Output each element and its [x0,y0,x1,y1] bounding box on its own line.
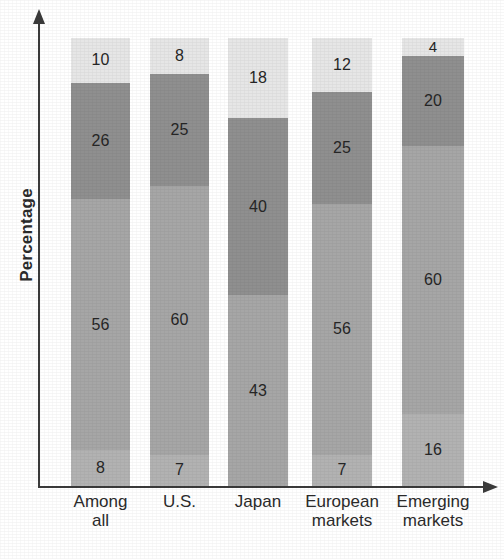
stacked-bar-chart: Percentage 10265688256071840431225567420… [0,0,504,559]
x-axis-arrow-icon [483,481,498,493]
bar-group[interactable]: 825607 [150,38,209,486]
bar-segment-value-label: 8 [175,48,184,64]
bar-segment-value-label: 26 [92,133,110,149]
bar-segment[interactable]: 43 [228,295,288,486]
bar-segment[interactable]: 25 [150,74,209,186]
bar-segment[interactable]: 60 [150,186,209,455]
bar-segment[interactable]: 26 [71,83,130,199]
x-axis-line [38,486,485,488]
bar-segment-value-label: 12 [333,57,351,73]
bar-segment-value-label: 7 [338,462,347,478]
x-axis-category-label: Emerging markets [381,492,485,530]
bar-segment[interactable]: 16 [402,414,464,486]
bar-group[interactable]: 184043 [228,38,288,486]
bar-segment[interactable]: 8 [71,450,130,486]
stacked-bar[interactable]: 4206016 [402,38,464,486]
stacked-bar[interactable]: 1225567 [312,38,372,486]
bar-segment-value-label: 43 [249,383,267,399]
bar-group[interactable]: 4206016 [402,38,464,486]
bar-segment[interactable]: 20 [402,56,464,146]
bar-segment-value-label: 10 [92,52,110,68]
bar-segment[interactable]: 7 [150,455,209,486]
stacked-bar[interactable]: 184043 [228,38,288,486]
bar-segment-value-label: 16 [424,442,442,458]
bar-segment-value-label: 25 [171,122,189,138]
bar-group[interactable]: 1225567 [312,38,372,486]
bar-segment[interactable]: 7 [312,455,372,486]
y-axis-title: Percentage [17,175,37,295]
bar-group[interactable]: 1026568 [71,38,130,486]
bar-segment-value-label: 20 [424,93,442,109]
plot-area: 102656882560718404312255674206016 [40,38,485,486]
bar-segment-value-label: 60 [424,272,442,288]
stacked-bar[interactable]: 825607 [150,38,209,486]
bar-segment[interactable]: 60 [402,146,464,415]
bar-segment-value-label: 25 [333,140,351,156]
y-axis-arrow-icon [33,9,45,24]
bar-segment-value-label: 4 [429,39,437,54]
bar-segment[interactable]: 4 [402,38,464,56]
bar-segment[interactable]: 10 [71,38,130,83]
bar-segment[interactable]: 56 [312,204,372,455]
bar-segment[interactable]: 56 [71,199,130,450]
bar-segment[interactable]: 18 [228,38,288,118]
bar-segment-value-label: 56 [92,317,110,333]
bar-segment-value-label: 60 [171,312,189,328]
bar-segment-value-label: 7 [175,462,184,478]
bar-segment[interactable]: 25 [312,92,372,204]
bar-segment-value-label: 18 [249,70,267,86]
bar-segment-value-label: 56 [333,321,351,337]
bar-segment[interactable]: 12 [312,38,372,92]
bar-segment[interactable]: 8 [150,38,209,74]
bar-segment-value-label: 8 [96,460,105,476]
bar-segment-value-label: 40 [249,199,267,215]
stacked-bar[interactable]: 1026568 [71,38,130,486]
x-axis-category-label: European markets [290,492,394,530]
bar-segment[interactable]: 40 [228,118,288,295]
